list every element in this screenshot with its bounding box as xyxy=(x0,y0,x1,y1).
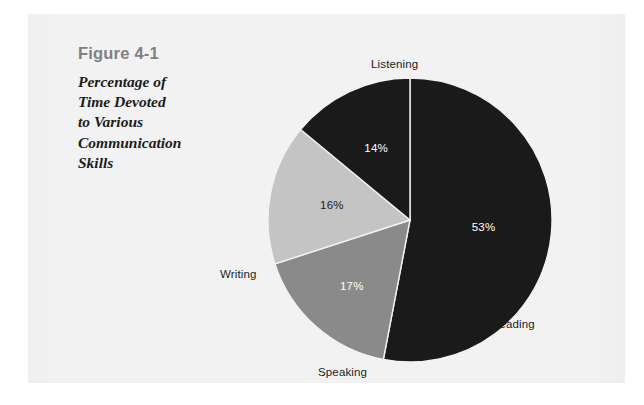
figure-title-line-1: Percentage of xyxy=(78,73,166,90)
figure-title: Percentage of Time Devoted to Various Co… xyxy=(78,72,228,173)
figure-root: Figure 4-1 Percentage of Time Devoted to… xyxy=(0,0,644,405)
pie-category-label-speaking: Speaking xyxy=(318,366,367,378)
pie-percent-label-speaking: 16% xyxy=(320,199,344,211)
caption-block: Figure 4-1 Percentage of Time Devoted to… xyxy=(78,44,248,173)
pie-chart-svg: 53%17%16%14% xyxy=(238,28,644,397)
figure-title-line-4: Communication xyxy=(78,134,181,151)
figure-panel: Figure 4-1 Percentage of Time Devoted to… xyxy=(28,14,625,383)
figure-title-line-2: Time Devoted xyxy=(78,93,166,110)
figure-title-line-3: to Various xyxy=(78,113,143,130)
figure-title-line-5: Skills xyxy=(78,154,113,171)
pie-category-label-listening: Listening xyxy=(371,58,418,70)
pie-category-label-writing: Writing xyxy=(220,268,257,280)
pie-percent-label-reading: 17% xyxy=(340,280,364,292)
figure-number: Figure 4-1 xyxy=(78,44,248,62)
pie-percent-label-listening: 53% xyxy=(472,221,496,233)
pie-percent-label-writing: 14% xyxy=(364,142,388,154)
pie-chart: 53%17%16%14% Listening Reading Speaking … xyxy=(238,28,644,397)
pie-category-label-reading: Reading xyxy=(491,318,535,330)
